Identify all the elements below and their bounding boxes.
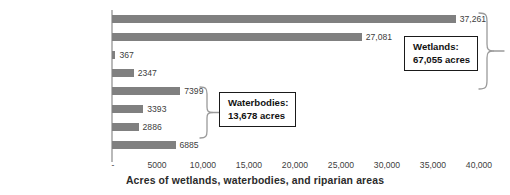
bar-row-riparian: Riparian 6885: [111, 136, 480, 154]
bar-value-shrub-scrub: 27,081: [362, 28, 392, 46]
bar-value-forested: 367: [115, 46, 133, 64]
bar-value-river: 3393: [143, 100, 166, 118]
bar-pond-impoundment: [112, 69, 134, 77]
bar-lake: [112, 87, 180, 95]
xtick-20000: 20,000: [282, 160, 308, 170]
x-axis-title: Acres of wetlands, waterbodies, and ripa…: [0, 175, 510, 186]
bar-riparian: [112, 141, 176, 149]
xtick-35000: 35,000: [420, 160, 446, 170]
plot-area: Herbaceous 37,261 Shrub-scrub 27,081 For…: [111, 10, 480, 160]
bar-shrub-scrub: [112, 33, 362, 41]
xtick-25000: 25,000: [328, 160, 354, 170]
xtick-0: -: [112, 160, 115, 170]
callout-wetlands-amount: 67,055 acres: [413, 54, 470, 67]
xtick-40000: 40,000: [466, 160, 492, 170]
bar-row-herbaceous: Herbaceous 37,261: [111, 10, 480, 28]
xtick-5000: 5000: [147, 160, 166, 170]
waterbodies-brace: [198, 86, 220, 140]
bar-herbaceous: [112, 15, 456, 23]
callout-wetlands-title: Wetlands:: [413, 41, 470, 54]
callout-waterbodies-title: Waterbodies:: [228, 97, 288, 110]
bar-value-stream-canal: 2886: [139, 118, 162, 136]
xtick-30000: 30,000: [374, 160, 400, 170]
bar-value-pond-impoundment: 2347: [134, 64, 157, 82]
xtick-15000: 15,000: [236, 160, 262, 170]
bar-chart: Herbaceous 37,261 Shrub-scrub 27,081 For…: [0, 0, 510, 195]
bar-value-riparian: 6885: [176, 136, 199, 154]
callout-wetlands: Wetlands: 67,055 acres: [404, 36, 478, 71]
callout-waterbodies: Waterbodies: 13,678 acres: [219, 92, 296, 127]
bar-stream-canal: [112, 123, 139, 131]
bar-river: [112, 105, 143, 113]
callout-waterbodies-amount: 13,678 acres: [228, 110, 288, 123]
wetlands-brace: [477, 12, 505, 90]
xtick-10000: 10,000: [190, 160, 216, 170]
